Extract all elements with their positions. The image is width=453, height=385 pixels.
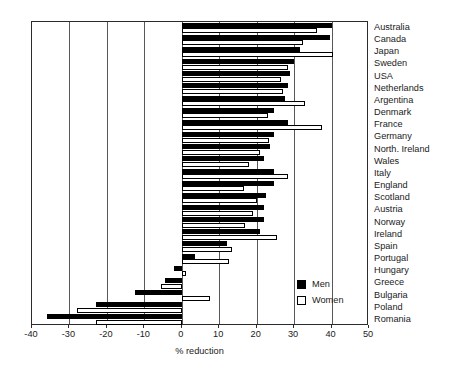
bar-men-ireland	[182, 229, 261, 234]
bar-women-netherlands	[182, 89, 283, 94]
bar-men-canada	[182, 35, 330, 40]
bar-men-wales	[182, 156, 264, 161]
bar-men-bulgaria	[135, 290, 182, 295]
bar-men-poland	[96, 302, 182, 307]
x-tick-label-20: 20	[251, 329, 261, 340]
bar-men-sweden	[182, 59, 294, 64]
bar-men-england	[182, 181, 274, 186]
x-tick-30	[293, 325, 294, 328]
bar-men-japan	[182, 47, 300, 52]
category-label-canada: Canada	[374, 34, 406, 44]
x-tick-40	[331, 325, 332, 328]
bar-women-australia	[182, 28, 317, 33]
chart-legend: Men Women	[297, 276, 359, 308]
legend-item-men: Men	[297, 276, 359, 292]
bar-women-portugal	[182, 259, 229, 264]
x-tick-10	[218, 325, 219, 328]
bar-men-usa	[182, 71, 291, 76]
bar-men-portugal	[182, 254, 195, 259]
category-label-ireland: Ireland	[374, 229, 402, 239]
category-label-wales: Wales	[374, 156, 399, 166]
category-label-australia: Australia	[374, 22, 410, 32]
chart-figure: AustraliaCanadaJapanSwedenUSANetherlands…	[0, 0, 453, 385]
x-tick-label-30: 30	[288, 329, 298, 340]
bar-women-argentina	[182, 101, 306, 106]
bar-women-wales	[182, 162, 249, 167]
bar-women-hungary	[182, 271, 186, 276]
category-label-england: England	[374, 180, 408, 190]
category-label-france: France	[374, 119, 403, 129]
category-axis-labels: AustraliaCanadaJapanSwedenUSANetherlands…	[374, 21, 453, 325]
category-label-romania: Romania	[374, 314, 411, 324]
bar-women-germany	[182, 138, 269, 143]
category-label-netherlands: Netherlands	[374, 83, 424, 93]
category-label-japan: Japan	[374, 46, 399, 56]
bar-men-scotland	[182, 193, 266, 198]
x-tick-20	[256, 325, 257, 328]
bar-women-ireland	[182, 235, 277, 240]
bar-men-netherlands	[182, 83, 289, 88]
category-label-scotland: Scotland	[374, 192, 410, 202]
bar-women-greece	[161, 284, 182, 289]
x-tick--10	[143, 325, 144, 328]
bar-women-france	[182, 125, 322, 130]
x-tick-label-50: 50	[363, 329, 373, 340]
category-label-sweden: Sweden	[374, 58, 407, 68]
x-axis-title: % reduction	[31, 346, 368, 356]
bar-women-spain	[182, 247, 233, 252]
category-label-greece: Greece	[374, 277, 404, 287]
bar-men-romania	[47, 314, 182, 319]
category-label-spain: Spain	[374, 241, 398, 251]
bar-men-austria	[182, 205, 264, 210]
legend-label-men: Men	[312, 279, 330, 289]
bar-men-north-ireland	[182, 144, 270, 149]
bar-women-denmark	[182, 113, 268, 118]
bar-men-australia	[182, 23, 332, 28]
x-tick--30	[68, 325, 69, 328]
bar-women-usa	[182, 77, 281, 82]
category-label-portugal: Portugal	[374, 253, 408, 263]
category-label-germany: Germany	[374, 131, 412, 141]
legend-swatch-women-icon	[297, 296, 306, 305]
category-label-hungary: Hungary	[374, 265, 409, 275]
bar-men-argentina	[182, 96, 285, 101]
category-label-denmark: Denmark	[374, 107, 411, 117]
bar-women-italy	[182, 174, 289, 179]
bar-women-north-ireland	[182, 150, 261, 155]
bar-women-canada	[182, 40, 304, 45]
bar-men-greece	[165, 278, 182, 283]
bar-women-norway	[182, 223, 246, 228]
x-tick-0	[181, 325, 182, 328]
bar-women-japan	[182, 52, 334, 57]
bar-women-scotland	[182, 198, 257, 203]
category-label-north-ireland: North. Ireland	[374, 144, 430, 154]
x-tick-label-10: 10	[213, 329, 223, 340]
bar-men-italy	[182, 169, 274, 174]
category-label-argentina: Argentina	[374, 95, 413, 105]
x-tick--20	[106, 325, 107, 328]
bar-men-germany	[182, 132, 274, 137]
x-tick--40	[31, 325, 32, 328]
x-tick-label--20: -20	[99, 329, 112, 340]
bar-women-bulgaria	[182, 296, 210, 301]
category-label-austria: Austria	[374, 204, 403, 214]
legend-swatch-men-icon	[297, 280, 306, 289]
bar-men-hungary	[174, 266, 181, 271]
x-tick-label-0: 0	[178, 329, 183, 340]
bar-men-denmark	[182, 108, 274, 113]
legend-label-women: Women	[312, 295, 344, 305]
category-label-norway: Norway	[374, 217, 405, 227]
x-tick-50	[368, 325, 369, 328]
category-label-bulgaria: Bulgaria	[374, 290, 408, 300]
bar-women-sweden	[182, 65, 289, 70]
x-tick-label--10: -10	[137, 329, 150, 340]
bar-men-norway	[182, 217, 264, 222]
x-tick-label--40: -40	[24, 329, 37, 340]
category-label-italy: Italy	[374, 168, 391, 178]
bar-women-poland	[77, 308, 182, 313]
bar-men-spain	[182, 241, 227, 246]
x-tick-label-40: 40	[325, 329, 335, 340]
category-label-usa: USA	[374, 71, 393, 81]
bar-women-austria	[182, 211, 253, 216]
category-label-poland: Poland	[374, 302, 403, 312]
